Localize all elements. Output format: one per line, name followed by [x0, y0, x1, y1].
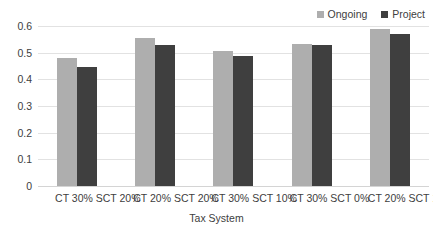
bar-ongoing — [213, 51, 233, 186]
bar-ongoing — [57, 58, 77, 186]
bar-project — [390, 34, 410, 186]
x-axis-tick-label: CT 30% SCT 20% — [55, 192, 99, 204]
bar-group — [370, 26, 410, 186]
y-axis-tick: 0.5 — [17, 47, 32, 59]
plot-area: 00.10.20.30.40.50.6 — [0, 26, 433, 192]
y-axis-tick: 0.1 — [17, 153, 32, 165]
bar-group — [213, 26, 253, 186]
bar-project — [312, 45, 332, 186]
bar-project — [155, 45, 175, 186]
y-axis-tick: 0.2 — [17, 127, 32, 139]
bar-ongoing — [370, 29, 390, 186]
bar-project — [77, 67, 97, 186]
y-axis-tick: 0 — [26, 180, 32, 192]
bar-chart: Ongoing Project 00.10.20.30.40.50.6 CT 3… — [0, 0, 433, 241]
bar-group — [292, 26, 332, 186]
x-axis-tick-label: CT 30% SCT 10% — [211, 192, 255, 204]
bar-ongoing — [135, 38, 155, 186]
bar-group — [135, 26, 175, 186]
bar-ongoing — [292, 44, 312, 186]
axis-baseline — [38, 186, 429, 187]
y-axis-tick: 0.3 — [17, 100, 32, 112]
x-axis-tick-label: CT 30% SCT 0% — [290, 192, 334, 204]
bars-layer — [38, 26, 429, 186]
bar-group — [57, 26, 97, 186]
x-axis-labels: CT 30% SCT 20%CT 20% SCT 20%CT 30% SCT 1… — [38, 192, 429, 204]
legend-item-ongoing: Ongoing — [317, 8, 368, 20]
chart-legend: Ongoing Project — [317, 8, 425, 20]
x-axis-tick-label: CT 20% SCT 10% — [368, 192, 412, 204]
legend-label-ongoing: Ongoing — [328, 8, 368, 20]
y-axis-tick: 0.4 — [17, 73, 32, 85]
legend-swatch-ongoing — [317, 11, 324, 18]
bar-project — [233, 56, 253, 186]
x-axis-title: Tax System — [0, 212, 433, 224]
legend-item-project: Project — [381, 8, 425, 20]
legend-swatch-project — [381, 11, 388, 18]
y-axis-tick: 0.6 — [17, 20, 32, 32]
legend-label-project: Project — [392, 8, 425, 20]
y-axis: 00.10.20.30.40.50.6 — [0, 26, 36, 186]
x-axis-tick-label: CT 20% SCT 20% — [133, 192, 177, 204]
